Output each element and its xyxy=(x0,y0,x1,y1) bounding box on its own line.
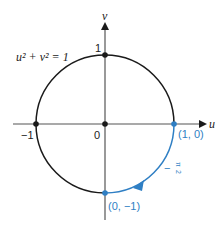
arc-arrow-icon xyxy=(133,180,144,191)
point-top xyxy=(102,52,108,58)
point-bottom-label: (0, −1) xyxy=(108,200,140,212)
v-axis-label: v xyxy=(102,9,108,23)
angle-numerator: π xyxy=(175,162,182,167)
angle-label: − π 2 xyxy=(164,162,182,174)
blue-arc xyxy=(105,124,174,193)
angle-sign: − xyxy=(164,162,170,174)
point-bottom xyxy=(102,190,108,196)
unit-circle-diagram: v u 1 −1 0 u² + v² = 1 (1, 0) (0, −1) − … xyxy=(0,0,222,233)
point-left xyxy=(33,121,39,127)
angle-denominator: 2 xyxy=(175,170,182,174)
point-right-label: (1, 0) xyxy=(178,128,204,140)
tick-origin: 0 xyxy=(94,129,100,141)
equation-label: u² + v² = 1 xyxy=(16,50,69,64)
tick-v-one: 1 xyxy=(95,42,101,54)
tick-u-neg-one: −1 xyxy=(21,129,34,141)
point-origin xyxy=(102,121,108,127)
point-right xyxy=(171,121,177,127)
u-axis-label: u xyxy=(209,117,215,131)
